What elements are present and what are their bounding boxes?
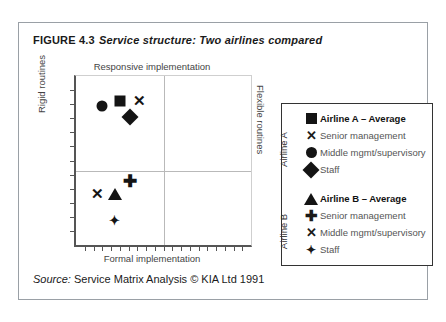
legend-group-label-airline-a: Airline A: [278, 132, 289, 167]
legend-item-label: Airline A – Average: [320, 113, 406, 124]
x-axis-tick: [190, 245, 191, 251]
legend-item: ✕Senior management: [302, 127, 432, 144]
y-axis-tick: [70, 175, 76, 176]
legend-item: Airline A – Average: [302, 110, 432, 127]
y-axis-tick: [70, 90, 76, 91]
legend-marker-diamond-icon: [302, 164, 320, 176]
legend-item: ✦Staff: [302, 241, 432, 258]
legend-group-label-airline-b: Airline B: [278, 214, 289, 249]
y-axis-tick: [70, 146, 76, 147]
y-axis-tick: [70, 231, 76, 232]
y-axis-tick: [70, 104, 76, 105]
data-point: ✕: [133, 92, 146, 107]
figure-container: FIGURE 4.3Service structure: Two airline…: [18, 22, 428, 300]
y-axis-tick: [70, 161, 76, 162]
y-axis-tick: [70, 132, 76, 133]
data-point: [108, 188, 122, 200]
legend-item: Airline B – Average: [302, 190, 432, 207]
axis-label-left: Rigid routines: [36, 55, 47, 113]
quadrant-vertical-line: [164, 76, 165, 245]
x-axis-tick: [207, 245, 208, 251]
legend-item-label: Staff: [320, 164, 339, 175]
source-label: Source:: [33, 273, 71, 285]
legend-marker-x-icon: ✕: [302, 129, 320, 142]
quadrant-horizontal-line: [76, 171, 251, 172]
x-axis-tick: [120, 245, 121, 251]
axis-label-right: Flexible routines: [255, 85, 266, 154]
chart-plot: Responsive implementation Formal impleme…: [38, 61, 266, 266]
legend-item-label: Middle mgmt/supervisory: [320, 227, 426, 238]
legend-item: Middle mgmt/supervisory: [302, 144, 432, 161]
y-axis-tick: [70, 189, 76, 190]
x-axis-tick: [164, 245, 165, 251]
data-point: ✚: [123, 172, 137, 189]
x-axis-tick: [94, 245, 95, 251]
legend-item-label: Airline B – Average: [320, 193, 406, 204]
y-axis-tick: [70, 217, 76, 218]
legend-item-label: Senior management: [320, 210, 406, 221]
legend-group-spacer: [302, 178, 432, 190]
x-axis-tick: [129, 245, 130, 251]
x-axis-tick: [137, 245, 138, 251]
data-point: ✕: [91, 185, 104, 200]
legend-item: ✚Senior management: [302, 207, 432, 224]
chart-legend: Airline A Airline B Airline A – Average✕…: [281, 103, 433, 266]
plot-area: ✕✚✕✦: [74, 75, 252, 247]
legend-marker-triangle-icon: [302, 193, 320, 205]
figure-title: Service structure: Two airlines compared: [99, 34, 322, 46]
legend-item-label: Middle mgmt/supervisory: [320, 147, 426, 158]
x-axis-tick: [234, 245, 235, 251]
axis-label-bottom: Formal implementation: [38, 253, 266, 264]
x-axis-tick: [85, 245, 86, 251]
y-axis-tick: [70, 203, 76, 204]
figure-number: FIGURE 4.3: [33, 34, 95, 46]
legend-item: Staff: [302, 161, 432, 178]
x-axis-tick: [111, 245, 112, 251]
legend-marker-plus-icon: ✚: [302, 208, 320, 223]
legend-marker-circle-icon: [302, 147, 320, 158]
x-axis-tick: [102, 245, 103, 251]
legend-rows: Airline A – Average✕Senior managementMid…: [302, 110, 432, 258]
data-point: ✦: [109, 213, 120, 226]
legend-item: ✕Middle mgmt/supervisory: [302, 224, 432, 241]
source-text: Service Matrix Analysis © KIA Ltd 1991: [74, 273, 264, 285]
x-axis-tick: [242, 245, 243, 251]
legend-marker-star4-icon: ✦: [302, 244, 320, 256]
x-axis-tick: [181, 245, 182, 251]
y-axis-tick: [70, 118, 76, 119]
legend-marker-square-icon: [302, 113, 320, 124]
x-axis-tick: [146, 245, 147, 251]
x-axis-tick: [225, 245, 226, 251]
data-point: [97, 101, 108, 112]
x-axis-tick: [216, 245, 217, 251]
x-axis-tick: [199, 245, 200, 251]
data-point: [124, 111, 136, 123]
x-axis-tick: [172, 245, 173, 251]
legend-item-label: Senior management: [320, 130, 406, 141]
figure-source: Source: Service Matrix Analysis © KIA Lt…: [33, 273, 264, 285]
legend-item-label: Staff: [320, 244, 339, 255]
figure-caption: FIGURE 4.3Service structure: Two airline…: [33, 34, 322, 46]
legend-marker-x-icon: ✕: [302, 226, 320, 239]
data-point: [114, 96, 125, 107]
axis-label-top: Responsive implementation: [38, 61, 266, 72]
x-axis-tick: [155, 245, 156, 251]
